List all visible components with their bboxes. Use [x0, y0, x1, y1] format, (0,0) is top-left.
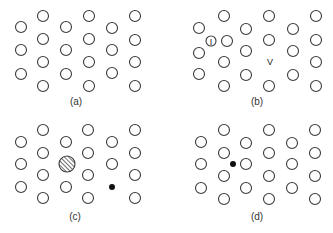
atom-icon — [196, 183, 207, 194]
atom-icon — [219, 125, 230, 136]
atom-icon — [196, 137, 207, 148]
panel-b: IV(b) — [194, 11, 322, 108]
atom-icon — [107, 23, 118, 34]
atom-icon — [264, 194, 275, 205]
atom-icon — [241, 24, 252, 35]
atom-icon — [264, 35, 275, 46]
atom-icon — [38, 57, 49, 68]
atom-icon — [310, 125, 321, 136]
atom-icon — [38, 125, 49, 136]
atom-icon — [241, 183, 252, 194]
atom-icon — [219, 171, 230, 182]
panel-a: (a) — [16, 11, 141, 108]
atom-icon — [287, 159, 298, 170]
atom-icon — [61, 22, 72, 33]
panel-label: (a) — [70, 96, 82, 107]
atom-icon — [38, 170, 49, 181]
small-impurity-atom-icon — [230, 161, 236, 167]
large-impurity-atom-icon — [59, 156, 75, 172]
atom-icon — [130, 57, 141, 68]
atom-icon — [264, 148, 275, 159]
atom-icon — [288, 46, 299, 57]
atom-icon — [288, 24, 299, 35]
atom-icon — [61, 137, 72, 148]
atom-icon — [130, 193, 141, 204]
panel-d: (d) — [196, 125, 321, 223]
atom-icon — [84, 57, 95, 68]
atom-icon — [130, 81, 141, 92]
atom-icon — [311, 35, 322, 46]
atom-icon — [219, 148, 230, 159]
atom-icon — [241, 70, 252, 81]
atom-icon — [310, 171, 321, 182]
atom-icon — [16, 159, 27, 170]
atom-icon — [241, 46, 252, 57]
atom-icon — [264, 125, 275, 136]
atom-icon — [16, 182, 27, 193]
atom-icon — [194, 48, 205, 59]
atom-icon — [130, 35, 141, 46]
atom-icon — [194, 23, 205, 34]
atom-icon — [196, 159, 207, 170]
atom-icon — [83, 148, 94, 159]
atom-icon — [264, 81, 275, 92]
atom-icon — [16, 69, 27, 80]
atom-icon — [16, 137, 27, 148]
atom-icon — [130, 11, 141, 22]
atom-icon — [84, 34, 95, 45]
atom-icon — [84, 81, 95, 92]
atom-icon — [219, 194, 230, 205]
small-impurity-atom-icon — [109, 184, 115, 190]
vacancy-symbol: V — [267, 57, 273, 67]
atom-icon — [107, 68, 118, 79]
atom-icon — [311, 81, 322, 92]
panel-c: (c) — [16, 125, 141, 223]
atom-icon — [310, 148, 321, 159]
atom-icon — [130, 125, 141, 136]
interstitial-symbol: I — [210, 37, 213, 47]
atom-icon — [130, 148, 141, 159]
atom-icon — [130, 170, 141, 181]
atom-icon — [38, 148, 49, 159]
atom-icon — [61, 182, 72, 193]
atom-icon — [38, 193, 49, 204]
atom-icon — [241, 138, 252, 149]
defects-figure: (a) IV(b) (c) (d) — [0, 0, 333, 233]
atom-icon — [83, 193, 94, 204]
panel-label: (b) — [251, 96, 263, 107]
atom-icon — [311, 11, 322, 22]
atom-icon — [38, 81, 49, 92]
atom-icon — [219, 81, 230, 92]
atom-icon — [83, 170, 94, 181]
atom-icon — [287, 183, 298, 194]
atom-icon — [287, 138, 298, 149]
atom-icon — [61, 69, 72, 80]
atom-icon — [194, 69, 205, 80]
panel-label: (d) — [251, 211, 263, 222]
lattice-diagram: (a) IV(b) (c) (d) — [0, 0, 333, 233]
atom-icon — [16, 22, 27, 33]
atom-icon — [83, 125, 94, 136]
atom-icon — [38, 34, 49, 45]
atom-icon — [107, 159, 118, 170]
atom-icon — [310, 194, 321, 205]
atom-icon — [241, 159, 252, 170]
atom-icon — [84, 11, 95, 22]
atom-icon — [61, 45, 72, 56]
atom-icon — [288, 70, 299, 81]
atom-icon — [107, 45, 118, 56]
atom-icon — [16, 45, 27, 56]
atom-icon — [219, 57, 230, 68]
atom-icon — [219, 11, 230, 22]
atom-icon — [264, 11, 275, 22]
atom-icon — [222, 36, 233, 47]
atom-icon — [264, 171, 275, 182]
atom-icon — [38, 11, 49, 22]
panel-label: (c) — [69, 211, 81, 222]
atom-icon — [107, 137, 118, 148]
atom-icon — [311, 57, 322, 68]
